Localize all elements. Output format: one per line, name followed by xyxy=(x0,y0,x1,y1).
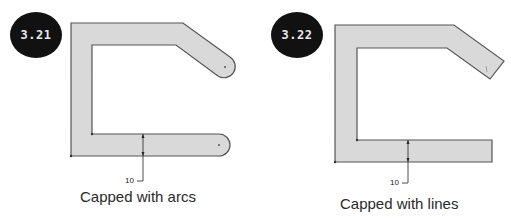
figure-number-badge: 3.21 xyxy=(10,12,62,58)
slot-shape-arcs xyxy=(70,23,235,157)
figure-number-badge: 3.22 xyxy=(271,12,323,58)
dimension-label: 10 xyxy=(390,178,399,187)
figure-caption: Capped with lines xyxy=(340,195,458,212)
diagram-canvas xyxy=(0,0,511,218)
dimension-label: 10 xyxy=(125,176,134,185)
figure-caption: Capped with arcs xyxy=(80,188,196,205)
slot-shape-lines xyxy=(334,25,504,163)
